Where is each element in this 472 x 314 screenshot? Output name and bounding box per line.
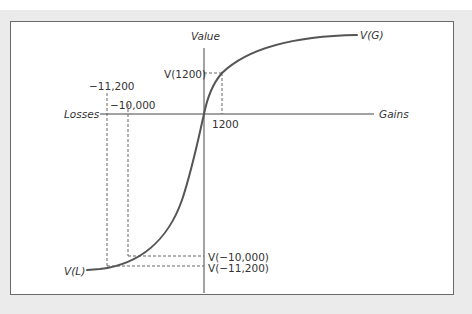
tick-v-1200-label: V(1200) bbox=[164, 68, 206, 80]
value-curve bbox=[87, 35, 357, 270]
tick-v-neg-11200-label: V(−11,200) bbox=[208, 262, 269, 274]
tick-1200-label: 1200 bbox=[212, 118, 239, 130]
curve-end-losses-label: V(L) bbox=[64, 265, 85, 277]
tick-neg-11200-label: −11,200 bbox=[89, 80, 135, 92]
curve-end-gains-label: V(G) bbox=[360, 29, 384, 41]
x-axis-gains-label: Gains bbox=[379, 108, 409, 120]
tick-neg-10000-label: −10,000 bbox=[110, 99, 156, 111]
y-axis-label: Value bbox=[191, 30, 220, 42]
x-axis-losses-label: Losses bbox=[64, 108, 99, 120]
